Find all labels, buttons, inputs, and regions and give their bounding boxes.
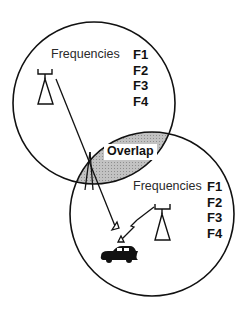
antenna-tower-icon: [38, 69, 53, 104]
frequency-f3: F3: [133, 78, 148, 94]
frequency-f4: F4: [133, 94, 148, 110]
cell-1-frequency-list: F1 F2 F3 F4: [133, 47, 148, 109]
overlap-label: Overlap: [104, 144, 157, 160]
frequency-f3: F3: [207, 210, 222, 226]
antenna-tower-icon: [155, 204, 170, 240]
cell-2-frequencies-label: Frequencies: [133, 180, 202, 193]
frequency-f2: F2: [207, 195, 222, 211]
frequency-f1: F1: [133, 47, 148, 63]
lightning-bolt-icon: [118, 207, 154, 242]
cell-2-frequency-list: F1 F2 F3 F4: [207, 179, 222, 241]
cell-1-frequencies-label: Frequencies: [51, 48, 120, 61]
frequency-f2: F2: [133, 63, 148, 79]
car-icon: [101, 246, 138, 263]
frequency-f1: F1: [207, 179, 222, 195]
frequency-f4: F4: [207, 226, 222, 242]
